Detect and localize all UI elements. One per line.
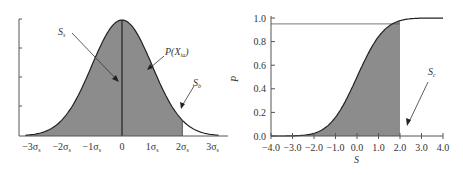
x-tick-label: 2σs [176,141,189,153]
x-tick-label: 0.0 [351,142,364,153]
y-tick-label: 0.8 [254,36,267,47]
x-tick-label: −2σs [52,141,71,153]
y-tick-label: 0.4 [254,83,267,94]
label-sb: Sb [193,77,201,89]
x-tick-label: −1.0 [326,142,344,153]
label-p-xia: P(Xia) [164,46,189,58]
x-tick-label: 1.0 [372,142,385,153]
y-tick-label: 0.6 [254,60,267,71]
arrow-sc [409,82,428,122]
y-axis-label: P [229,76,240,83]
arrowhead-sb [180,102,185,109]
y-tick-label: 1.0 [254,13,267,24]
x-tick-label: 4.0 [437,142,450,153]
cdf-chart: 0.00.20.40.60.81.0 −4.0−3.0−2.0−1.00.01.… [229,13,449,166]
x-tick-label: 1σs [146,141,159,153]
normal-pdf-chart: −3σs−2σs−1σs01σs2σs3σs Ss P(Xia) Sb [19,19,228,153]
x-tick-label: −2.0 [305,142,323,153]
x-tick-labels: −3σs−2σs−1σs01σs2σs3σs [22,141,219,153]
arrow-p [150,56,164,68]
shaded-area [271,21,400,136]
y-tick-label: 0.0 [254,131,267,142]
x-tick-label: −3.0 [283,142,301,153]
y-ticks: 0.00.20.40.60.81.0 [254,13,276,142]
label-sc: Sc [428,66,436,78]
arrow-sb [182,86,194,106]
x-tick-label: −3σs [22,141,41,153]
x-tick-label: 3.0 [415,142,428,153]
label-ss: Ss [58,26,66,38]
figure: −3σs−2σs−1σs01σs2σs3σs Ss P(Xia) Sb 0.00… [0,0,463,175]
x-axis-label: S [354,154,359,165]
x-tick-label: 2.0 [394,142,407,153]
y-tick-label: 0.2 [254,107,267,118]
x-tick-label: −4.0 [262,142,280,153]
x-tick-label: −1σs [83,141,102,153]
shaded-area [25,20,182,136]
x-tick-label: 3σs [206,141,219,153]
x-tick-label: 0 [120,141,125,152]
